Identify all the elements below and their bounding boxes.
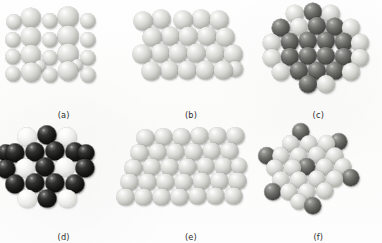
sphere-a-9-light bbox=[42, 32, 57, 47]
sphere-b-6-light bbox=[161, 27, 180, 46]
sphere-e-15-light bbox=[231, 158, 247, 174]
panel-grid: (a) (b) (c) (d) (e) (f) bbox=[0, 0, 382, 243]
sphere-a-10-light bbox=[80, 32, 95, 47]
sphere-a-2-light bbox=[21, 8, 41, 28]
sphere-a-4-light bbox=[80, 13, 95, 28]
sphere-e-32-light bbox=[153, 188, 170, 205]
panel-f: (f) bbox=[255, 122, 382, 243]
panel-a: (a) bbox=[0, 0, 127, 122]
sphere-e-1-light bbox=[191, 127, 208, 144]
sphere-b-11-light bbox=[151, 44, 170, 63]
sphere-b-12-light bbox=[169, 44, 188, 63]
sphere-b-1-light bbox=[152, 10, 171, 29]
sphere-a-22-light bbox=[81, 68, 96, 83]
sphere-e-30-light bbox=[117, 188, 134, 205]
panel-c: (c) bbox=[255, 0, 382, 122]
sphere-a-13-light bbox=[5, 49, 20, 64]
panel-c-caption: (c) bbox=[313, 111, 325, 121]
sphere-b-13-light bbox=[187, 44, 206, 63]
sphere-f-16-dark bbox=[342, 169, 360, 187]
sphere-f-26-dark bbox=[304, 197, 322, 215]
sphere-b-7-light bbox=[179, 27, 198, 46]
figure-canvas: (a) (b) (c) (d) (e) (f) bbox=[0, 0, 382, 243]
panel-d-spheres bbox=[0, 122, 127, 233]
sphere-a-5-light bbox=[6, 14, 21, 29]
sphere-b-20-light bbox=[196, 61, 215, 80]
sphere-b-22-light bbox=[142, 62, 161, 81]
sphere-b-21-light bbox=[214, 61, 233, 80]
sphere-a-8-light bbox=[5, 32, 20, 47]
sphere-a-18-light bbox=[58, 61, 78, 81]
sphere-b-4-light bbox=[210, 11, 229, 30]
panel-e-spheres bbox=[127, 122, 254, 233]
panel-e-caption: (e) bbox=[185, 233, 197, 243]
sphere-b-8-light bbox=[198, 27, 217, 46]
panel-f-spheres bbox=[255, 122, 382, 233]
sphere-f-21-light bbox=[316, 182, 334, 200]
sphere-a-20-light bbox=[6, 67, 21, 82]
sphere-d-19-white bbox=[18, 189, 37, 208]
panel-a-spheres bbox=[0, 0, 127, 111]
sphere-d-20-black bbox=[38, 189, 57, 208]
sphere-a-3-light bbox=[42, 13, 57, 28]
sphere-e-29-light bbox=[225, 187, 242, 204]
panel-e: (e) bbox=[127, 122, 254, 243]
sphere-a-19-light bbox=[21, 62, 41, 82]
panel-b-caption: (b) bbox=[185, 111, 197, 121]
sphere-b-14-light bbox=[206, 44, 225, 63]
sphere-c-27-light bbox=[317, 75, 335, 93]
panel-f-caption: (f) bbox=[313, 233, 323, 243]
sphere-e-31-light bbox=[135, 188, 152, 205]
sphere-a-21-light bbox=[43, 68, 58, 83]
sphere-f-22-dark bbox=[264, 183, 282, 201]
sphere-e-28-light bbox=[207, 187, 224, 204]
sphere-b-18-light bbox=[160, 61, 179, 80]
sphere-d-21-white bbox=[58, 189, 77, 208]
panel-a-caption: (a) bbox=[58, 111, 70, 121]
sphere-b-15-light bbox=[133, 45, 152, 64]
panel-d-caption: (d) bbox=[58, 233, 70, 243]
panel-d: (d) bbox=[0, 122, 127, 243]
sphere-c-26-dark bbox=[299, 75, 317, 93]
panel-b-spheres bbox=[127, 0, 254, 111]
sphere-c-24-light bbox=[271, 63, 289, 81]
sphere-b-2-light bbox=[192, 10, 211, 29]
sphere-c-25-light bbox=[341, 63, 359, 81]
sphere-e-33-light bbox=[171, 188, 188, 205]
sphere-b-19-light bbox=[178, 61, 197, 80]
sphere-e-27-light bbox=[189, 187, 206, 204]
panel-b: (b) bbox=[127, 0, 254, 122]
sphere-a-1-light bbox=[58, 7, 79, 28]
panel-c-spheres bbox=[255, 0, 382, 111]
